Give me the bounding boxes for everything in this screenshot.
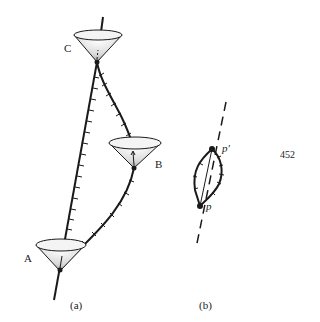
light-cone-b — [109, 137, 161, 171]
caption-b: (b) — [199, 300, 212, 311]
label-a: A — [24, 253, 32, 264]
page-number: 452 — [280, 150, 295, 160]
event-c-dot — [95, 60, 100, 65]
light-cone-a — [36, 239, 86, 273]
light-cone-c — [74, 30, 122, 65]
curved-worldline-abc — [60, 62, 134, 270]
label-c: C — [64, 43, 71, 54]
event-a-dot — [58, 268, 63, 273]
label-b: B — [155, 159, 162, 170]
caption-a: (a) — [70, 300, 82, 311]
label-p-prime: p′ — [222, 143, 230, 154]
event-b-dot — [132, 166, 137, 171]
event-p-dot — [197, 203, 203, 209]
label-p: p — [206, 201, 212, 212]
event-p-prime-dot — [209, 146, 215, 152]
